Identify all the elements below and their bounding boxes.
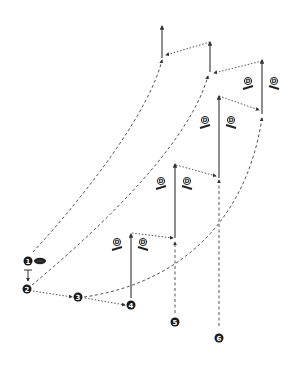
defender: D xyxy=(200,116,210,128)
dashed-route-curves xyxy=(32,60,262,297)
player-1: 1 xyxy=(24,257,33,266)
svg-text:D: D xyxy=(141,238,146,245)
defender: D xyxy=(156,177,166,189)
svg-text:D: D xyxy=(115,238,120,245)
dashed-verticals xyxy=(175,180,219,326)
dotted-pass-lines xyxy=(33,42,262,305)
svg-text:D: D xyxy=(159,177,164,184)
drill-diagram: 1 2 3 4 5 6 D D D xyxy=(0,0,290,365)
svg-text:D: D xyxy=(203,116,208,123)
solid-routes xyxy=(131,26,262,298)
player-3: 3 xyxy=(74,293,83,302)
svg-text:D: D xyxy=(229,116,234,123)
svg-text:3: 3 xyxy=(76,294,81,302)
defender: D xyxy=(138,238,148,250)
svg-text:D: D xyxy=(185,177,190,184)
diagram-canvas: 1 2 3 4 5 6 D D D xyxy=(0,0,290,365)
player-6: 6 xyxy=(215,334,224,343)
player-2: 2 xyxy=(23,285,32,294)
defender: D xyxy=(269,77,279,89)
defender-markers: D D D D D D xyxy=(112,77,279,250)
svg-text:D: D xyxy=(272,77,277,84)
svg-text:6: 6 xyxy=(217,335,222,343)
svg-text:D: D xyxy=(246,77,251,84)
player-4: 4 xyxy=(127,301,136,310)
svg-text:2: 2 xyxy=(25,286,30,294)
defender: D xyxy=(182,177,192,189)
svg-text:5: 5 xyxy=(173,319,178,327)
defender: D xyxy=(226,116,236,128)
svg-text:1: 1 xyxy=(26,258,31,266)
svg-text:4: 4 xyxy=(129,302,134,310)
defender: D xyxy=(112,238,122,250)
down-arrow-icon xyxy=(24,270,32,281)
player-5: 5 xyxy=(171,318,180,327)
defender: D xyxy=(243,77,253,89)
